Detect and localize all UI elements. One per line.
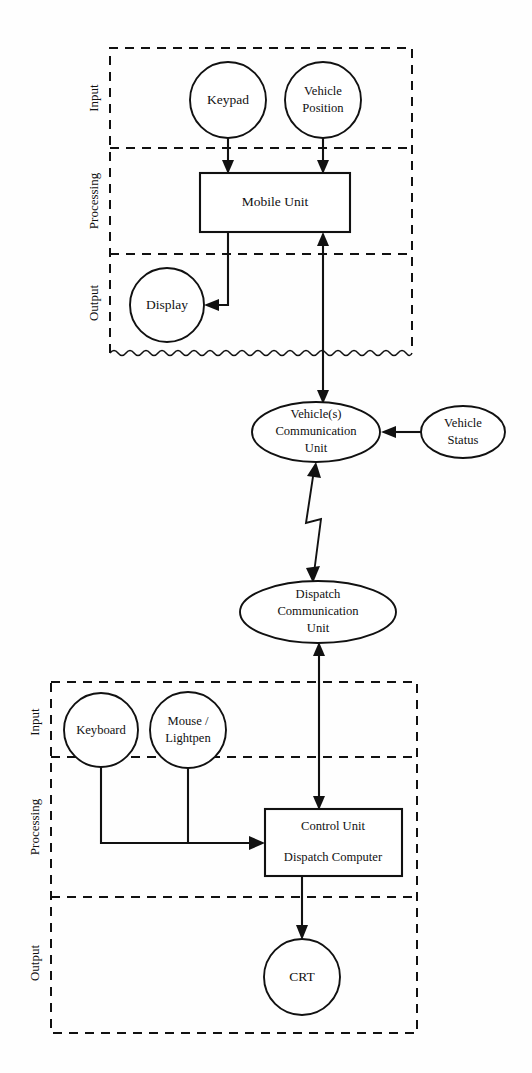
mobile-comm-arrow-head-up <box>317 232 329 246</box>
dispatch-control-arrow-head-up <box>313 642 325 656</box>
vehicle-status-label-line2: Status <box>448 433 479 447</box>
keypad-label: Keypad <box>207 92 249 107</box>
mouse-lightpen-label-line2: Lightpen <box>165 731 211 745</box>
diagram-canvas: Input Processing Output Keypad Vehicle P… <box>0 0 532 1073</box>
node-display[interactable]: Display <box>130 268 204 342</box>
node-control-unit[interactable]: Control Unit Dispatch Computer <box>265 809 402 876</box>
link-vehicle-position-to-mobile-unit <box>317 138 329 174</box>
mobile-zone-label-processing: Processing <box>86 172 101 229</box>
vehicle-comm-unit-label-line2: Communication <box>275 424 357 438</box>
keypad-arrow-head <box>222 160 234 174</box>
link-dispatch-comm-unit-to-control-unit <box>313 642 325 810</box>
vehicle-position-label-line1: Vehicle <box>304 84 342 98</box>
mobile-unit-label: Mobile Unit <box>242 194 309 209</box>
link-mobile-unit-to-vehicle-comm-unit <box>317 232 329 404</box>
vehicle-position-arrow-head <box>317 160 329 174</box>
keyboard-connector-line <box>101 767 253 843</box>
link-vehicle-status-to-vehicle-comm-unit <box>381 426 421 438</box>
node-crt[interactable]: CRT <box>264 939 340 1015</box>
mobile-zone-label-input: Input <box>86 84 101 112</box>
link-vehicle-comm-to-dispatch-comm-lightning <box>306 462 321 583</box>
link-mobile-unit-to-display <box>204 232 228 311</box>
crt-arrow-head <box>296 925 308 940</box>
node-vehicle-position[interactable]: Vehicle Position <box>285 62 361 138</box>
control-unit-label-line1: Control Unit <box>301 819 366 833</box>
keyboard-label: Keyboard <box>76 723 126 737</box>
display-arrow-head <box>204 299 219 311</box>
dispatch-comm-unit-label-line1: Dispatch <box>296 587 341 601</box>
mobile-subsystem-wavy-edge <box>110 351 412 356</box>
mouse-lightpen-label-line1: Mouse / <box>168 714 209 728</box>
vehicle-comm-unit-label-line3: Unit <box>305 441 328 455</box>
display-label: Display <box>146 297 188 312</box>
link-control-unit-to-crt <box>296 876 308 940</box>
control-unit-label-line2: Dispatch Computer <box>284 850 383 864</box>
vehicle-status-arrow-head <box>381 426 396 438</box>
node-vehicle-status[interactable]: Vehicle Status <box>421 406 505 458</box>
dispatch-comm-unit-label-line2: Communication <box>277 604 359 618</box>
dispatch-zone-label-processing: Processing <box>27 798 42 855</box>
block-diagram: Input Processing Output Keypad Vehicle P… <box>0 0 532 1073</box>
dispatch-comm-unit-label-line3: Unit <box>307 621 330 635</box>
node-keyboard[interactable]: Keyboard <box>64 693 138 767</box>
link-input-devices-to-control-unit <box>101 767 265 850</box>
dispatch-zone-label-input: Input <box>27 708 42 736</box>
crt-label: CRT <box>289 969 315 984</box>
input-devices-arrow-head <box>249 836 265 850</box>
dispatch-control-arrow-head-down <box>313 796 325 810</box>
node-keypad[interactable]: Keypad <box>190 62 266 138</box>
node-mouse-lightpen[interactable]: Mouse / Lightpen <box>150 692 226 768</box>
vehicle-position-label-line2: Position <box>302 101 344 115</box>
vehicle-comm-unit-label-line1: Vehicle(s) <box>290 407 341 421</box>
display-connector-line <box>214 232 228 305</box>
lightning-arrow-head-up <box>307 462 321 478</box>
node-dispatch-comm-unit[interactable]: Dispatch Communication Unit <box>240 581 396 643</box>
dispatch-zone-label-output: Output <box>27 945 42 982</box>
lightning-link-line <box>306 470 321 573</box>
node-mobile-unit[interactable]: Mobile Unit <box>200 173 350 232</box>
mobile-zone-label-output: Output <box>86 285 101 322</box>
link-keypad-to-mobile-unit <box>222 138 234 174</box>
vehicle-status-label-line1: Vehicle <box>444 416 482 430</box>
node-vehicle-comm-unit[interactable]: Vehicle(s) Communication Unit <box>252 402 380 462</box>
